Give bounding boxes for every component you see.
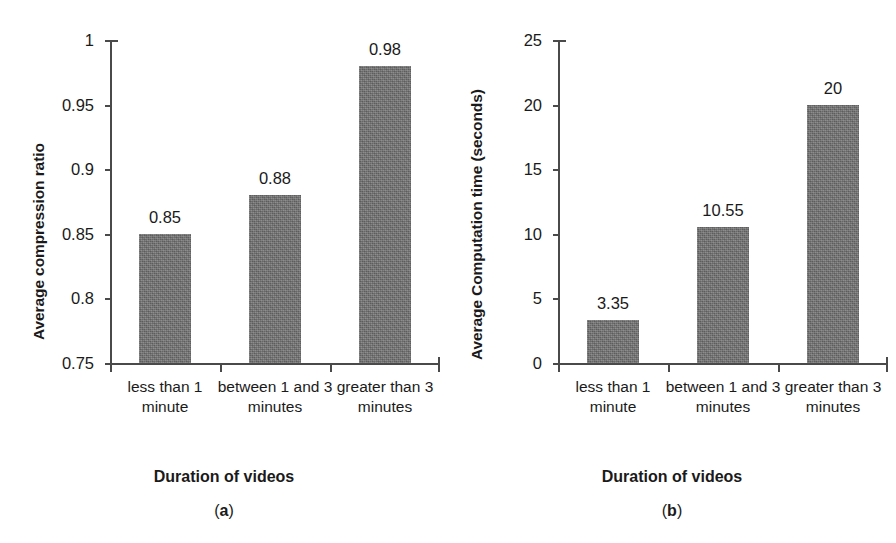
y-axis-tick-label: 0 [533, 354, 542, 373]
y-axis-title-a: Average compression ratio [30, 143, 48, 340]
x-axis-category-label: between 1 and 3 minutes [215, 377, 335, 418]
x-axis-tick-mark [558, 364, 560, 372]
panel-caption-letter-a: a [220, 502, 229, 519]
y-axis-tick-label: 0.8 [71, 289, 94, 308]
bar [249, 195, 301, 363]
y-axis-tick-mark [105, 234, 112, 236]
y-axis-tick-mark [553, 234, 560, 236]
panel-caption-letter-b: b [667, 502, 677, 519]
y-axis-tick-mark [553, 105, 560, 107]
y-axis-tick-label: 5 [533, 289, 542, 308]
x-axis-title-a: Duration of videos [0, 468, 448, 486]
y-axis-line-a [110, 40, 112, 365]
bar [587, 320, 639, 363]
x-axis-tick-mark [886, 364, 888, 372]
x-axis-category-label: less than 1 minute [105, 377, 225, 418]
y-axis-tick-label: 0.75 [62, 354, 94, 373]
x-axis-tick-mark [438, 364, 440, 372]
x-axis-line-b [558, 363, 888, 365]
x-axis-line-a [110, 363, 440, 365]
x-axis-title-b: Duration of videos [448, 468, 896, 486]
chart-panel-b: Average Computation time (seconds) 05101… [448, 0, 896, 543]
plot-area-a: 0.850.880.98 [110, 40, 440, 365]
x-axis-category-label: greater than 3 minutes [325, 377, 445, 418]
x-axis-category-label: between 1 and 3 minutes [663, 377, 783, 418]
bar-value-label: 0.98 [369, 40, 401, 59]
y-axis-tick-mark [553, 298, 560, 300]
x-axis-tick-mark [778, 364, 780, 372]
y-axis-tick-label: 15 [524, 160, 542, 179]
y-axis-tick-labels-a: 0.750.80.850.90.951 [48, 40, 94, 365]
bar [359, 66, 411, 363]
chart-panel-a: Average compression ratio 0.750.80.850.9… [0, 0, 448, 543]
y-axis-tick-label: 0.85 [62, 224, 94, 243]
y-axis-tick-mark [105, 169, 112, 171]
y-axis-tick-mark [105, 105, 112, 107]
x-axis-tick-mark [330, 364, 332, 372]
bar-value-label: 10.55 [702, 201, 743, 220]
x-axis-tick-mark [110, 364, 112, 372]
y-axis-tick-label: 1 [85, 31, 94, 50]
y-axis-tick-label: 0.9 [71, 160, 94, 179]
y-axis-tick-mark [553, 40, 560, 42]
plot-area-b: 3.3510.5520 [558, 40, 888, 365]
y-axis-tick-label: 0.95 [62, 95, 94, 114]
panel-caption-a: (a) [0, 502, 448, 520]
bar-value-label: 20 [824, 79, 842, 98]
y-axis-tick-label: 20 [524, 95, 542, 114]
x-axis-tick-mark [220, 364, 222, 372]
y-axis-tick-label: 10 [524, 224, 542, 243]
bar [139, 234, 191, 363]
figure-two-bar-charts: Average compression ratio 0.750.80.850.9… [0, 0, 896, 543]
bar-value-label: 3.35 [597, 294, 629, 313]
x-axis-tick-mark [668, 364, 670, 372]
panel-caption-b: (b) [448, 502, 896, 520]
y-axis-tick-mark [105, 298, 112, 300]
y-axis-tick-labels-b: 0510152025 [496, 40, 542, 365]
y-axis-title-b: Average Computation time (seconds) [468, 89, 486, 360]
bar-value-label: 0.85 [149, 208, 181, 227]
y-axis-tick-mark [553, 169, 560, 171]
y-axis-tick-label: 25 [524, 31, 542, 50]
x-axis-category-label: greater than 3 minutes [773, 377, 893, 418]
bar [807, 105, 859, 363]
bar [697, 227, 749, 363]
y-axis-line-b [558, 40, 560, 365]
x-axis-category-label: less than 1 minute [553, 377, 673, 418]
bar-value-label: 0.88 [259, 169, 291, 188]
y-axis-tick-mark [105, 40, 112, 42]
